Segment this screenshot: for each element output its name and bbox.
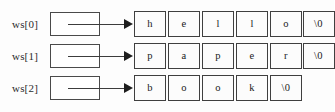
char-cell-null-terminator: \0 (303, 11, 335, 37)
char-cell: r (270, 43, 302, 69)
char-cell: o (202, 75, 234, 101)
arrow-line (68, 24, 126, 25)
char-cell: o (168, 75, 200, 101)
diagram-row: ws[2] b o o k \0 (0, 75, 334, 101)
row-label-ws1: ws[1] (12, 43, 46, 69)
row-label-ws2: ws[2] (12, 75, 46, 101)
arrow-head-icon (124, 19, 133, 29)
pointer-arrow-ws0 (68, 22, 134, 27)
char-cell-null-terminator: \0 (270, 75, 302, 101)
diagram-row: ws[1] p a p e r \0 (0, 43, 334, 69)
char-cell: p (134, 43, 166, 69)
char-cell: p (202, 43, 234, 69)
row-label-ws0: ws[0] (12, 11, 46, 37)
char-cell: k (236, 75, 268, 101)
char-cells-ws1: p a p e r \0 (134, 43, 335, 69)
char-cell: l (202, 11, 234, 37)
char-cell: b (134, 75, 166, 101)
arrow-head-icon (124, 51, 133, 61)
char-cell: e (236, 43, 268, 69)
char-cells-ws0: h e l l o \0 (134, 11, 335, 37)
arrow-head-icon (124, 83, 133, 93)
pointer-arrow-ws1 (68, 54, 134, 59)
char-cell: o (270, 11, 302, 37)
char-cells-ws2: b o o k \0 (134, 75, 302, 101)
char-cell: h (134, 11, 166, 37)
char-cell: e (168, 11, 200, 37)
diagram-row: ws[0] h e l l o \0 (0, 11, 334, 37)
char-cell-null-terminator: \0 (303, 43, 335, 69)
arrow-line (68, 56, 126, 57)
char-cell: l (236, 11, 268, 37)
arrow-line (68, 88, 126, 89)
char-cell: a (168, 43, 200, 69)
pointer-arrow-ws2 (68, 86, 134, 91)
